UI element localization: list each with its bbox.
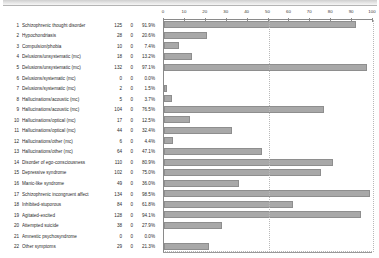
symptom-count: 132 xyxy=(107,65,122,70)
symptom-label: Schizophrenic thought disorder xyxy=(22,23,107,28)
bar xyxy=(164,53,192,60)
symptom-missing: 0 xyxy=(122,244,133,249)
x-tick-label: 30 xyxy=(223,9,228,14)
table-row: 20Attempted suicide38027.9% xyxy=(8,220,160,231)
x-tick-label: 0 xyxy=(162,9,164,14)
table-row: 13Hallucinations/other (mc)64047.1% xyxy=(8,147,160,158)
symptom-percent: 91.9% xyxy=(133,23,157,28)
symptom-label: Depressive syndrome xyxy=(22,170,107,175)
symptom-count: 110 xyxy=(107,160,122,165)
symptom-label: Hallucinations/acoustic (mc) xyxy=(22,107,107,112)
row-index: 15 xyxy=(8,170,22,175)
bar xyxy=(164,148,262,155)
bar xyxy=(164,190,370,197)
table-row: 5Delusions/unsystematic (mc)132097.1% xyxy=(8,62,160,73)
row-index: 22 xyxy=(8,244,22,249)
symptom-percent: 97.1% xyxy=(133,65,157,70)
table-row: 8Hallucinations/acoustic (mc)503.7% xyxy=(8,94,160,105)
x-tick-label: 60 xyxy=(286,9,291,14)
symptom-missing: 0 xyxy=(122,44,133,49)
report-window: 1Schizophrenic thought disorder125091.9%… xyxy=(0,0,379,258)
symptom-missing: 0 xyxy=(122,181,133,186)
row-index: 2 xyxy=(8,33,22,38)
symptom-percent: 94.1% xyxy=(133,213,157,218)
table-row: 7Delusions/systematic (mc)201.5% xyxy=(8,83,160,94)
table-row: 3Compulsion/phobia1007.4% xyxy=(8,41,160,52)
symptom-missing: 0 xyxy=(122,202,133,207)
symptom-count: 2 xyxy=(107,86,122,91)
symptom-label: Compulsion/phobia xyxy=(22,44,107,49)
symptom-percent: 20.6% xyxy=(133,33,157,38)
table-row: 14Disorder of ego-consciousness110080.9% xyxy=(8,157,160,168)
symptom-count: 0 xyxy=(107,76,122,81)
table-row: 4Delusions/unsystematic (mc)18013.2% xyxy=(8,52,160,63)
symptom-missing: 0 xyxy=(122,118,133,123)
symptom-missing: 0 xyxy=(122,160,133,165)
row-index: 9 xyxy=(8,107,22,112)
symptom-missing: 0 xyxy=(122,65,133,70)
row-index: 17 xyxy=(8,192,22,197)
symptom-label: Delusions/unsystematic (mc) xyxy=(22,54,107,59)
symptom-missing: 0 xyxy=(122,76,133,81)
symptom-missing: 0 xyxy=(122,170,133,175)
symptom-percent: 12.5% xyxy=(133,118,157,123)
bar xyxy=(164,95,172,102)
symptom-percent: 61.8% xyxy=(133,202,157,207)
row-index: 21 xyxy=(8,234,22,239)
row-index: 19 xyxy=(8,213,22,218)
symptom-label: Hallucinations/other (mc) xyxy=(22,139,107,144)
bar xyxy=(164,21,356,28)
symptom-table: 1Schizophrenic thought disorder125091.9%… xyxy=(8,20,160,252)
symptom-percent: 32.4% xyxy=(133,128,157,133)
symptom-missing: 0 xyxy=(122,128,133,133)
row-index: 13 xyxy=(8,149,22,154)
row-index: 4 xyxy=(8,54,22,59)
bar xyxy=(164,211,361,218)
table-row: 12Hallucinations/other (mc)604.4% xyxy=(8,136,160,147)
symptom-count: 5 xyxy=(107,97,122,102)
symptom-count: 17 xyxy=(107,118,122,123)
table-row: 22Other symptoms29021.3% xyxy=(8,241,160,252)
table-row: 9Hallucinations/acoustic (mc)104076.5% xyxy=(8,104,160,115)
symptom-percent: 4.4% xyxy=(133,139,157,144)
symptom-count: 134 xyxy=(107,192,122,197)
symptom-percent: 36.0% xyxy=(133,181,157,186)
bar xyxy=(164,137,173,144)
row-index: 16 xyxy=(8,181,22,186)
symptom-count: 128 xyxy=(107,213,122,218)
symptom-label: Hallucinations/optical (mc) xyxy=(22,118,107,123)
table-row: 16Manic-like syndrome49036.0% xyxy=(8,178,160,189)
symptom-frequency-report: 1Schizophrenic thought disorder125091.9%… xyxy=(0,5,379,258)
symptom-count: 125 xyxy=(107,23,122,28)
symptom-missing: 0 xyxy=(122,23,133,28)
bar xyxy=(164,42,179,49)
symptom-percent: 0.0% xyxy=(133,234,157,239)
symptom-count: 44 xyxy=(107,128,122,133)
symptom-label: Attempted suicide xyxy=(22,223,107,228)
row-index: 5 xyxy=(8,65,22,70)
row-index: 10 xyxy=(8,118,22,123)
symptom-percent: 13.2% xyxy=(133,54,157,59)
bar xyxy=(164,64,367,71)
vertical-gridline xyxy=(269,20,270,252)
bar xyxy=(164,159,333,166)
row-index: 20 xyxy=(8,223,22,228)
table-row: 6Delusions/systematic (mc)000.0% xyxy=(8,73,160,84)
symptom-label: Delusions/systematic (mc) xyxy=(22,86,107,91)
symptom-missing: 0 xyxy=(122,33,133,38)
x-tick-label: 10 xyxy=(181,9,186,14)
symptom-label: Hypochondriasis xyxy=(22,33,107,38)
x-tick-label: 50 xyxy=(265,9,270,14)
vertical-gridline xyxy=(373,20,374,252)
symptom-missing: 0 xyxy=(122,192,133,197)
x-axis-ticks: 0102030405060708090100 xyxy=(163,9,372,20)
x-tick-label: 100 xyxy=(368,9,375,14)
symptom-count: 6 xyxy=(107,139,122,144)
bar xyxy=(164,85,167,92)
symptom-count: 38 xyxy=(107,223,122,228)
row-index: 1 xyxy=(8,23,22,28)
symptom-percent: 98.5% xyxy=(133,192,157,197)
symptom-label: Disorder of ego-consciousness xyxy=(22,160,107,165)
symptom-missing: 0 xyxy=(122,107,133,112)
symptom-percent: 76.5% xyxy=(133,107,157,112)
